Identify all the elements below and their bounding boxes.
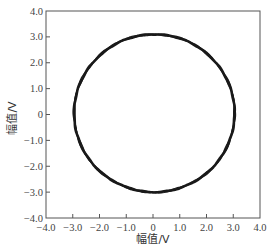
- x-axis-tick-labels: −4.0−3.0−2.0−1.001.02.03.04.0: [36, 222, 266, 233]
- x-tick-label: 4.0: [253, 222, 266, 233]
- y-tick-label: 3.0: [30, 31, 43, 42]
- x-tick-label: −3.0: [63, 222, 82, 233]
- y-tick-label: 0: [38, 109, 43, 120]
- chart-figure: −4.0−3.0−2.0−1.001.02.03.04.0 −4.0−3.0−2…: [0, 0, 272, 251]
- y-tick-label: −1.0: [24, 135, 43, 146]
- x-tick-label: 2.0: [200, 222, 213, 233]
- y-axis-tick-labels: −4.0−3.0−2.0−1.001.02.03.04.0: [24, 6, 43, 224]
- y-tick-label: 2.0: [30, 57, 43, 68]
- x-tick-label: −2.0: [90, 222, 109, 233]
- y-tick-label: −3.0: [24, 187, 43, 198]
- x-axis-label: 幅值/V: [136, 233, 170, 246]
- plot-area: [46, 11, 260, 218]
- y-tick-label: 1.0: [30, 83, 43, 94]
- x-tick-label: 3.0: [227, 222, 240, 233]
- y-tick-label: −4.0: [24, 213, 43, 224]
- y-axis-label: 幅值/V: [6, 101, 19, 135]
- x-tick-label: 0: [150, 222, 155, 233]
- y-tick-label: −2.0: [24, 161, 43, 172]
- x-tick-label: −4.0: [36, 222, 55, 233]
- x-tick-label: 1.0: [173, 222, 186, 233]
- x-tick-label: −1.0: [117, 222, 136, 233]
- y-tick-label: 4.0: [30, 6, 43, 17]
